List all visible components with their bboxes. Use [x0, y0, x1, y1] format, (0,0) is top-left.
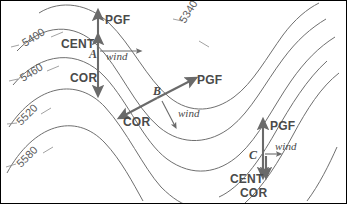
point-label-b: B	[152, 84, 161, 98]
point-label-c: C	[249, 148, 258, 162]
cent-label-c: CENT	[230, 172, 264, 186]
wind-label-b: wind	[178, 107, 200, 119]
wind-label-a: wind	[106, 50, 128, 62]
contour-label-5520: 5520	[14, 102, 40, 128]
pgf-label-b: PGF	[197, 73, 222, 87]
cor-label-c: COR	[240, 186, 267, 200]
pgf-label-c: PGF	[270, 119, 295, 133]
wind-arrow-b	[162, 101, 175, 126]
contour-label-5460: 5460	[18, 61, 45, 84]
cor-label-b: COR	[123, 115, 150, 129]
contour-line-5520	[9, 89, 193, 203]
cor-label-a: COR	[70, 71, 97, 85]
point-a-group: PGF CENT COR A wind	[61, 13, 139, 91]
pgf-label-a: PGF	[105, 13, 130, 27]
contour-label-5400: 5400	[20, 26, 47, 49]
contour-label-5580: 5580	[14, 144, 40, 170]
point-b-group: PGF COR B wind	[123, 73, 222, 129]
pgf-arrow-b	[157, 80, 192, 98]
contour-label-5340: 5340	[177, 1, 200, 25]
force-balance-diagram: 5400 5460 5520 5580 5340 PGF CENT COR A …	[0, 0, 347, 204]
cor-arrow-b	[123, 98, 157, 116]
point-label-a: A	[88, 47, 97, 61]
contour-lines	[7, 3, 339, 203]
leader-5340	[173, 19, 209, 47]
wind-label-c: wind	[275, 140, 297, 152]
point-c-group: PGF CENT COR C wind	[230, 119, 297, 200]
contour-line-outer-right	[307, 147, 337, 201]
